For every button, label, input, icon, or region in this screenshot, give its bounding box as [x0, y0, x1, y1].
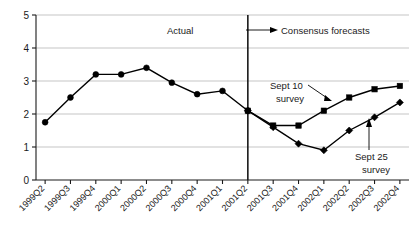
- data-point-marker-square: [372, 87, 377, 92]
- y-tick-label: 2: [23, 109, 29, 120]
- line-chart: 1999Q21999Q31999Q42000Q12000Q22000Q32000…: [0, 0, 417, 231]
- data-point-marker-circle: [93, 72, 99, 78]
- x-tick-group: [45, 180, 400, 184]
- x-tick-label: 2002Q2: [321, 183, 351, 213]
- data-series-group: [45, 68, 400, 151]
- y-axis-labels-group: 012345: [23, 10, 29, 186]
- sept10-annotation-label-line2: survey: [276, 93, 304, 104]
- data-point-marker-circle: [220, 88, 226, 94]
- x-tick-label: 1999Q2: [17, 183, 47, 213]
- x-tick-label: 2002Q1: [296, 183, 326, 213]
- sept25-leader-arrow-icon: [366, 118, 372, 150]
- data-point-marker-diamond: [396, 99, 403, 106]
- y-tick-label: 5: [23, 10, 29, 21]
- sept25-annotation-label-line2: survey: [362, 164, 390, 175]
- x-tick-label: 2002Q4: [372, 183, 402, 213]
- data-point-marker-circle: [42, 119, 48, 125]
- data-point-marker-diamond: [295, 140, 302, 147]
- y-tick-label: 3: [23, 76, 29, 87]
- x-tick-label: 2001Q4: [270, 183, 300, 213]
- sept25-annotation-label-line1: Sept 25: [355, 151, 388, 162]
- sept10-annotation-label-line1: Sept 10: [270, 80, 303, 91]
- x-tick-label: 2000Q4: [169, 183, 199, 213]
- data-point-marker-square: [321, 108, 326, 113]
- data-point-marker-square: [296, 123, 301, 128]
- x-tick-label: 1999Q3: [42, 183, 72, 213]
- data-point-marker-square: [347, 95, 352, 100]
- data-point-marker-circle: [68, 95, 74, 101]
- y-tick-label: 4: [23, 43, 29, 54]
- x-tick-label: 2000Q2: [118, 183, 148, 213]
- y-tick-label: 1: [23, 142, 29, 153]
- data-point-marker-circle: [144, 65, 150, 71]
- x-axis-labels-group: 1999Q21999Q31999Q42000Q12000Q22000Q32000…: [17, 183, 401, 213]
- y-tick-group: [32, 15, 36, 180]
- data-markers-group: [42, 65, 403, 154]
- actual-annotation-label: Actual: [167, 25, 193, 36]
- sept10-leader-arrow-icon: [308, 85, 332, 101]
- y-tick-label: 0: [23, 175, 29, 186]
- consensus-annotation-label: Consensus forecasts: [281, 25, 370, 36]
- x-tick-label: 2000Q3: [144, 183, 174, 213]
- x-tick-label: 2000Q1: [93, 183, 123, 213]
- data-point-marker-circle: [169, 80, 175, 86]
- x-tick-label: 2001Q1: [194, 183, 224, 213]
- x-tick-label: 2001Q2: [220, 183, 250, 213]
- data-point-marker-square: [397, 83, 402, 88]
- data-point-marker-circle: [194, 91, 200, 97]
- data-point-marker-diamond: [371, 114, 378, 121]
- x-tick-label: 2002Q3: [346, 183, 376, 213]
- chart-container: 1999Q21999Q31999Q42000Q12000Q22000Q32000…: [0, 0, 417, 231]
- consensus-arrow-icon: [246, 27, 278, 33]
- data-point-marker-circle: [118, 72, 124, 78]
- x-tick-label: 1999Q4: [67, 183, 97, 213]
- x-tick-label: 2001Q3: [245, 183, 275, 213]
